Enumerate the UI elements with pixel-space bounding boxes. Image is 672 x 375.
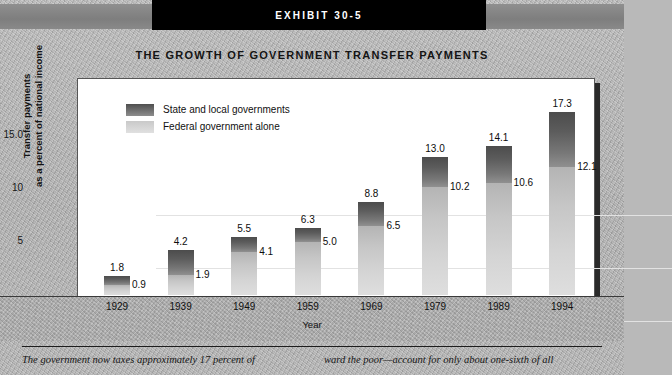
caption-divider (22, 346, 602, 347)
legend-swatch-federal-icon (126, 121, 154, 133)
x-axis-tick-1949: 1949 (214, 301, 274, 312)
bar-federal-label-1979: 10.2 (450, 181, 490, 192)
gridline-15 (156, 215, 672, 216)
bar-total-label-1979: 13.0 (405, 143, 465, 154)
bar-segment-state-local-1959 (295, 228, 321, 242)
bar-segment-state-local-1979 (422, 157, 448, 187)
exhibit-banner: EXHIBIT 30-5 (152, 0, 486, 30)
bar-segment-state-local-1994 (549, 112, 575, 167)
bar-federal-label-1929: 0.9 (132, 279, 172, 290)
bar-segment-federal-1969 (358, 226, 384, 295)
x-axis-tick-1969: 1969 (341, 301, 401, 312)
bar-segment-state-local-1929 (104, 276, 130, 286)
legend-swatch-state-local-icon (126, 104, 154, 116)
bar-total-label-1989: 14.1 (469, 132, 529, 143)
legend-label-federal: Federal government alone (163, 121, 280, 132)
bar-segment-state-local-1989 (486, 146, 512, 183)
bar-segment-federal-1929 (104, 285, 130, 295)
exhibit-banner-label: EXHIBIT 30-5 (275, 10, 362, 21)
caption-column-right: ward the poor—account for only about one… (324, 354, 602, 366)
bar-total-label-1959: 6.3 (278, 214, 338, 225)
legend-label-state-local: State and local governments (163, 104, 290, 115)
x-axis-tick-1929: 1929 (87, 301, 147, 312)
chart-title: THE GROWTH OF GOVERNMENT TRANSFER PAYMEN… (0, 49, 624, 61)
bar-segment-federal-1979 (422, 187, 448, 295)
bar-federal-label-1939: 1.9 (196, 269, 236, 280)
bar-1929 (104, 276, 130, 295)
bar-federal-label-1959: 5.0 (323, 236, 363, 247)
y-axis-title-line2: as a percent of national income (33, 45, 44, 187)
bar-segment-federal-1959 (295, 242, 321, 295)
y-axis-tick-5: 5 (0, 235, 23, 246)
bar-segment-federal-1949 (231, 252, 257, 295)
x-axis-tick-1989: 1989 (469, 301, 529, 312)
bar-1979 (422, 157, 448, 295)
chart-legend: State and local governments Federal gove… (126, 102, 290, 136)
bar-total-label-1929: 1.8 (87, 262, 147, 273)
bar-1939 (168, 250, 194, 295)
bar-federal-label-1994: 12.1 (577, 161, 617, 172)
bar-federal-label-1969: 6.5 (386, 220, 426, 231)
y-axis-tick-15.0: 15.0 (0, 129, 23, 140)
bar-total-label-1949: 5.5 (214, 223, 274, 234)
bar-federal-label-1949: 4.1 (259, 246, 299, 257)
bar-1989 (486, 146, 512, 295)
bar-segment-federal-1939 (168, 275, 194, 295)
caption-block: The government now taxes approximately 1… (22, 346, 602, 366)
x-axis-tick-1959: 1959 (278, 301, 338, 312)
bar-segment-state-local-1939 (168, 250, 194, 274)
bar-federal-label-1989: 10.6 (514, 177, 554, 188)
bar-segment-state-local-1969 (358, 202, 384, 226)
bar-total-label-1994: 17.3 (532, 98, 592, 109)
legend-item-federal: Federal government alone (126, 119, 290, 134)
bar-total-label-1969: 8.8 (341, 188, 401, 199)
x-axis-tick-1939: 1939 (151, 301, 211, 312)
caption-column-left: The government now taxes approximately 1… (22, 354, 300, 366)
bar-1959 (295, 228, 321, 295)
caption-text: The government now taxes approximately 1… (22, 354, 602, 366)
bar-segment-federal-1994 (549, 167, 575, 295)
bar-1994 (549, 112, 575, 295)
x-axis-tick-1994: 1994 (532, 301, 592, 312)
legend-item-state-local: State and local governments (126, 102, 290, 117)
bar-total-label-1939: 4.2 (151, 236, 211, 247)
x-axis-title: Year (0, 319, 624, 330)
y-axis-title: Transfer payments as a percent of nation… (21, 21, 45, 211)
x-axis-tick-1979: 1979 (405, 301, 465, 312)
bar-segment-state-local-1949 (231, 237, 257, 252)
y-axis-tick-10: 10 (0, 182, 23, 193)
bar-segment-federal-1989 (486, 183, 512, 295)
bar-1969 (358, 202, 384, 295)
y-axis-title-line1: Transfer payments (21, 74, 32, 158)
bar-1949 (231, 237, 257, 295)
